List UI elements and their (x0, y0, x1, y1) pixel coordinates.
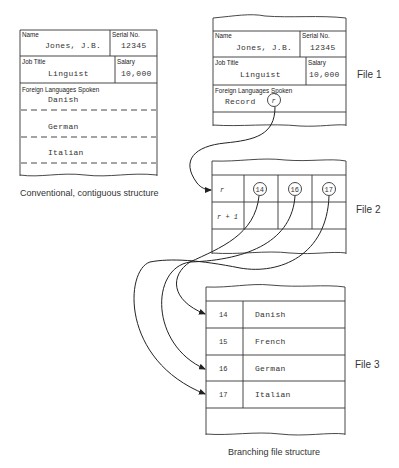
file3-box (206, 285, 345, 435)
file1-record-label: Record (225, 97, 256, 106)
pointer-arrow-17 (134, 196, 329, 394)
name-label: Name (22, 31, 39, 38)
file3-label: File 3 (355, 359, 380, 370)
file1-label: File 1 (357, 69, 382, 80)
file2-pointer: 14 (256, 186, 264, 194)
language-item: German (48, 122, 79, 131)
language-item: Danish (48, 95, 79, 104)
salary-value: 10,000 (121, 69, 152, 78)
file3-row-id: 16 (219, 365, 227, 373)
file1-name-label: Name (215, 32, 232, 39)
file1-serial-label: Serial No. (302, 32, 330, 39)
file1-job-value: Linguist (240, 70, 281, 79)
file2-row-key: r + 1 (217, 213, 238, 221)
job-title-value: Linguist (48, 69, 89, 78)
conventional-caption: Conventional, contiguous structure (20, 188, 159, 198)
file2-pointer: 17 (325, 186, 333, 194)
file2-row-key: r (220, 186, 224, 194)
file3-row-language: Danish (255, 310, 286, 319)
file1-serial-value: 12345 (310, 43, 336, 52)
file3-row-language: German (255, 364, 286, 373)
file3-row-id: 15 (219, 338, 227, 346)
language-item: Italian (48, 148, 84, 157)
serial-value: 12345 (121, 41, 147, 50)
file3-row-language: Italian (255, 390, 291, 399)
file3-row-language: French (255, 337, 286, 346)
serial-label: Serial No. (112, 31, 140, 38)
file1-name-value: Jones, J.B. (236, 43, 292, 52)
file1-languages-label: Foreign Languages Spoken (215, 87, 293, 95)
file-structure-diagram: Name Jones, J.B. Serial No. 12345 Job Ti… (0, 0, 399, 468)
file1-record-pointer: r (272, 97, 276, 105)
name-value: Jones, J.B. (45, 41, 101, 50)
file3-row-id: 17 (219, 391, 227, 399)
job-title-label: Job Title (22, 58, 46, 65)
file1-salary-value: 10,000 (309, 70, 340, 79)
file3-row-id: 14 (219, 311, 227, 319)
branching-caption: Branching file structure (228, 447, 320, 457)
pointer-arrow-r (190, 107, 275, 190)
file2-pointer: 16 (291, 186, 299, 194)
salary-label: Salary (117, 58, 136, 66)
file2-label: File 2 (356, 204, 381, 215)
languages-label: Foreign Languages Spoken (22, 86, 100, 94)
file1-job-label: Job Title (215, 59, 239, 66)
file1-salary-label: Salary (308, 59, 327, 67)
conventional-record-box (20, 30, 157, 176)
